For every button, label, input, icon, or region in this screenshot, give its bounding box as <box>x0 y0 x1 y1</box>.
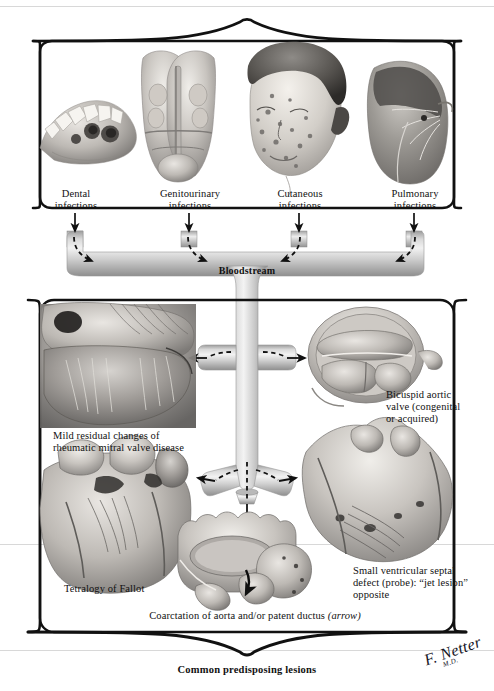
tetralogy-of-fallot-heart-illustration <box>40 436 191 594</box>
label-coarctation-text: Coarctation of aorta and/or patent ductu… <box>149 610 328 621</box>
bottom-brace <box>28 632 466 655</box>
label-cutaneous-infections: Cutaneous infections <box>254 188 346 212</box>
label-tetralogy-of-fallot: Tetralogy of Fallot <box>64 583 204 595</box>
label-pulmonary-infections: Pulmonary infections <box>370 188 460 212</box>
label-coarctation-arrow-note: (arrow) <box>328 610 361 621</box>
plate-caption: Common predisposing lesions <box>147 664 347 676</box>
label-dental-infections: Dental infections <box>35 188 117 212</box>
lung-with-consolidation-illustration <box>367 61 452 184</box>
ventricular-septal-defect-illustration <box>302 417 452 561</box>
label-genitourinary-infections: Genitourinary infections <box>140 188 240 212</box>
label-coarctation-of-aorta: Coarctation of aorta and/or patent ductu… <box>130 610 380 622</box>
mitral-valve-rheumatic-changes-illustration <box>40 303 196 428</box>
mandible-with-dental-caries-illustration <box>40 101 136 164</box>
label-rheumatic-mitral-valve-disease: Mild residual changes of rheumatic mitra… <box>53 430 243 454</box>
label-ventricular-septal-defect: Small ventricular septal defect (probe):… <box>353 565 494 602</box>
label-bloodstream: Bloodstream <box>197 265 297 277</box>
coarctation-of-aorta-illustration <box>178 512 312 610</box>
top-brace <box>33 19 461 41</box>
label-bicuspid-aortic-valve: Bicuspid aortic valve (congenital or acq… <box>386 389 494 426</box>
netter-plate: Dental infections Genitourinary infectio… <box>0 0 494 691</box>
child-face-with-skin-lesions-illustration <box>247 42 349 196</box>
prostate-bladder-coronal-section-illustration <box>141 51 215 182</box>
